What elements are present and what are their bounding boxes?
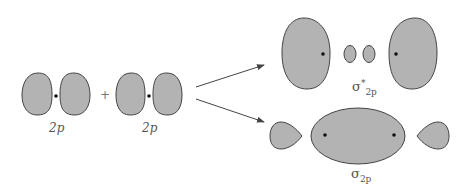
orbital-label-1: 2p	[49, 121, 64, 135]
subscript: 2p	[360, 174, 372, 184]
sigma-symbol: σ	[351, 166, 360, 181]
arrow-to-bonding	[196, 99, 264, 122]
bonding-label: σ2p	[351, 166, 371, 184]
p-orbital-1	[22, 73, 90, 115]
sigma-orbital	[270, 108, 449, 164]
mo-diagram: 2p + 2p σ*2p σ2p	[0, 0, 475, 186]
p-orbital-2	[116, 73, 182, 115]
sigma-symbol: σ	[352, 79, 361, 94]
orbital-label-2: 2p	[142, 121, 157, 135]
plus-sign: +	[100, 88, 110, 102]
orbital-drawing	[0, 0, 475, 186]
antibonding-label: σ*2p	[352, 78, 377, 97]
subscript: 2p	[365, 87, 377, 97]
arrow-to-antibonding	[196, 65, 264, 87]
